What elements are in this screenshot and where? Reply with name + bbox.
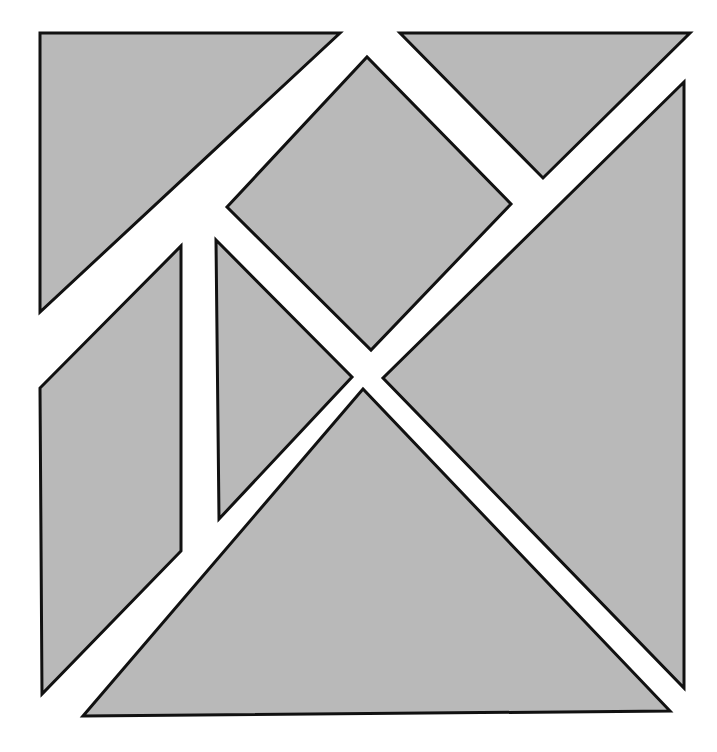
tangram-figure	[0, 0, 717, 752]
tangram-canvas	[0, 0, 717, 752]
